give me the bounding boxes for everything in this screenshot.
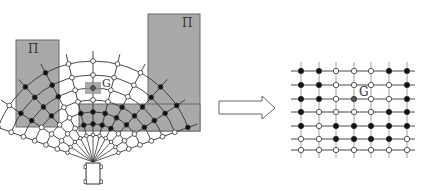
free-node xyxy=(351,68,356,73)
goal-node xyxy=(91,86,96,91)
free-node xyxy=(117,151,121,155)
free-node xyxy=(351,109,356,114)
occupied-node xyxy=(158,85,163,90)
free-node xyxy=(351,82,356,87)
goal-label: G xyxy=(359,85,369,99)
free-node xyxy=(9,130,14,135)
free-node xyxy=(69,145,73,149)
free-node xyxy=(73,140,77,144)
free-node xyxy=(298,136,303,141)
free-node xyxy=(333,147,338,152)
occupied-node xyxy=(333,123,338,128)
free-node xyxy=(76,99,81,104)
free-node xyxy=(39,125,44,130)
occupied-node xyxy=(368,123,373,128)
occupied-node xyxy=(404,68,409,73)
occupied-node xyxy=(41,105,46,110)
occupied-node xyxy=(29,118,34,123)
free-node xyxy=(149,138,154,143)
arrow-right-icon xyxy=(219,96,275,119)
free-node xyxy=(131,83,136,88)
free-node xyxy=(316,136,321,141)
free-node xyxy=(316,123,321,128)
occupied-node xyxy=(132,114,137,119)
occupied-node xyxy=(351,136,356,141)
free-node xyxy=(7,103,12,108)
free-node xyxy=(122,138,127,143)
free-node xyxy=(67,115,72,120)
free-node xyxy=(404,136,409,141)
occupied-node xyxy=(404,109,409,114)
occupied-node xyxy=(18,111,23,116)
occupied-node xyxy=(404,82,409,87)
free-node xyxy=(138,142,143,147)
wheel-icon xyxy=(84,165,87,169)
free-node xyxy=(66,151,70,155)
free-node xyxy=(44,142,49,147)
free-node xyxy=(125,94,130,99)
free-node xyxy=(91,59,96,64)
free-node xyxy=(112,75,117,80)
free-node xyxy=(404,147,409,152)
free-node xyxy=(115,62,120,67)
free-node xyxy=(73,126,78,131)
occupied-node xyxy=(386,123,391,128)
occupied-node xyxy=(79,111,84,116)
free-node xyxy=(333,109,338,114)
occupied-node xyxy=(368,136,373,141)
free-node xyxy=(333,82,338,87)
free-node xyxy=(32,138,37,143)
free-node xyxy=(160,134,165,139)
free-node xyxy=(386,147,391,152)
occupied-node xyxy=(32,95,37,100)
free-node xyxy=(49,132,54,137)
free-node xyxy=(106,99,111,104)
occupied-node xyxy=(149,95,154,100)
occupied-node xyxy=(120,105,125,110)
free-node xyxy=(73,88,78,93)
occupied-node xyxy=(316,96,321,101)
free-node xyxy=(57,122,62,127)
occupied-node xyxy=(49,114,54,119)
occupied-node xyxy=(103,111,108,116)
occupied-node xyxy=(404,96,409,101)
obstacle-label: Π xyxy=(182,16,192,30)
occupied-node xyxy=(43,70,48,75)
free-node xyxy=(61,105,66,110)
free-node xyxy=(333,68,338,73)
occupied-node xyxy=(316,82,321,87)
occupied-node xyxy=(50,83,55,88)
occupied-node xyxy=(91,110,96,115)
occupied-node xyxy=(174,103,179,108)
free-node xyxy=(368,96,373,101)
diagram: ΠΠGG xyxy=(0,0,432,191)
occupied-node xyxy=(124,122,129,127)
free-node xyxy=(316,147,321,152)
free-node xyxy=(91,133,95,137)
free-node xyxy=(98,134,102,138)
occupied-node xyxy=(298,123,303,128)
free-node xyxy=(79,136,83,140)
free-node xyxy=(65,131,70,136)
occupied-node xyxy=(186,125,191,130)
free-node xyxy=(91,98,96,103)
free-node xyxy=(298,147,303,152)
occupied-node xyxy=(56,94,61,99)
free-node xyxy=(59,138,64,143)
occupied-node xyxy=(140,105,145,110)
vehicle-icon xyxy=(84,163,103,184)
free-node xyxy=(66,62,71,67)
wheel-icon xyxy=(84,180,87,184)
occupied-node xyxy=(100,123,105,128)
free-node xyxy=(126,147,131,152)
free-node xyxy=(386,96,391,101)
occupied-node xyxy=(404,123,409,128)
free-node xyxy=(368,147,373,152)
polar-grid-panel: ΠΠGG xyxy=(0,0,432,191)
free-node xyxy=(109,88,114,93)
occupied-node xyxy=(316,68,321,73)
occupied-node xyxy=(298,82,303,87)
free-node xyxy=(368,68,373,73)
free-node xyxy=(386,82,391,87)
wheel-icon xyxy=(100,180,103,184)
